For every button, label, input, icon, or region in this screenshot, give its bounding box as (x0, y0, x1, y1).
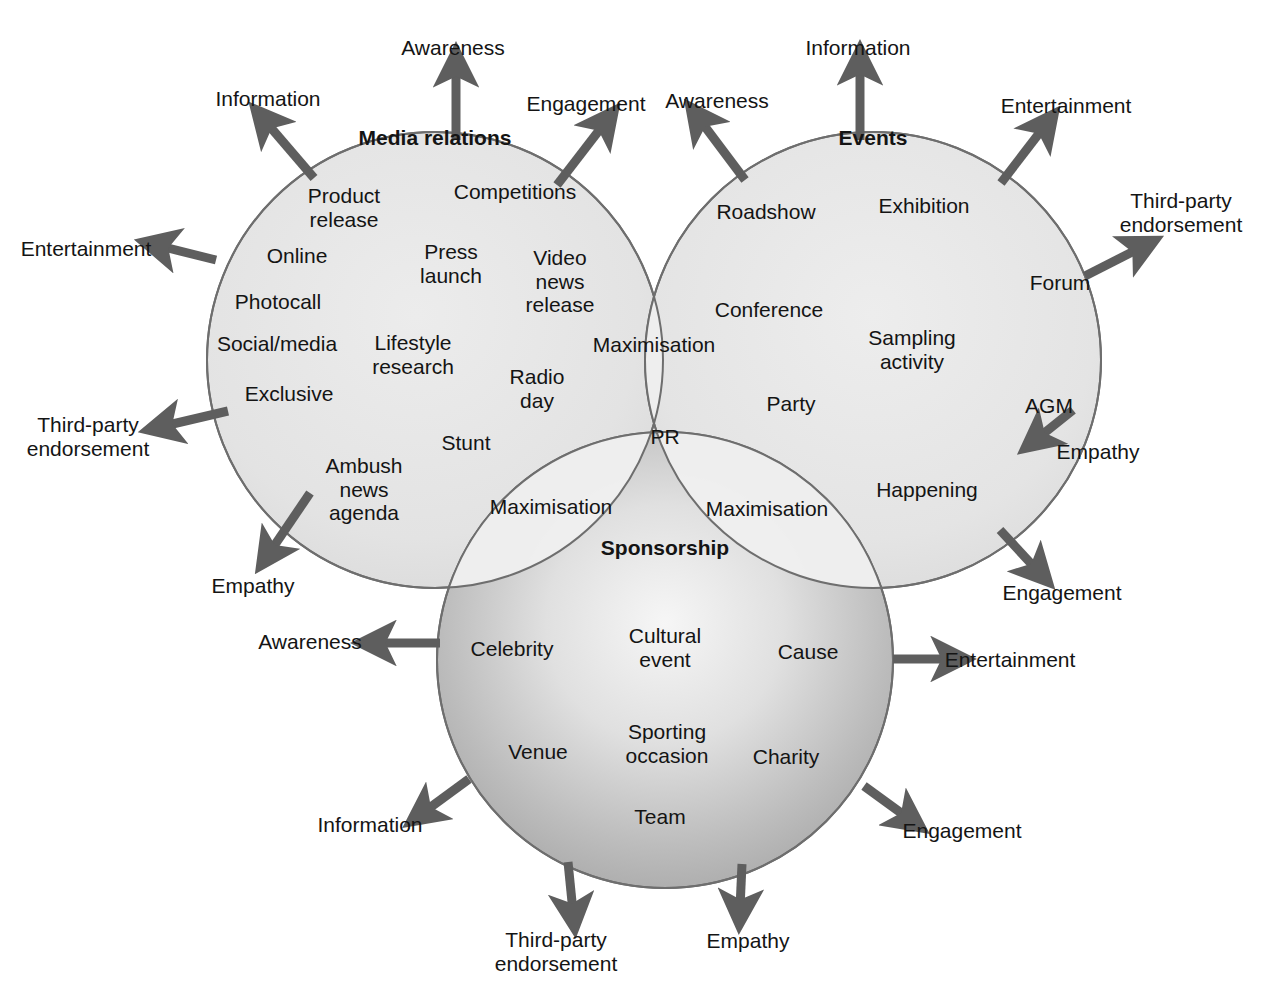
media-relations-item-1: Competitions (454, 180, 577, 204)
arrow-label-sp-information: Information (317, 813, 422, 837)
arrow-label-sp-thirdparty: Third-party endorsement (495, 928, 618, 975)
overlap-label-overlap-events-sponsorship: Maximisation (706, 497, 829, 521)
arrow-label-ev-engagement: Engagement (1002, 581, 1121, 605)
media-relations-item-10: Stunt (441, 431, 490, 455)
arrow-label-ev-information: Information (805, 36, 910, 60)
arrow-label-ev-thirdparty: Third-party endorsement (1120, 189, 1243, 236)
events-item-2: Conference (715, 298, 824, 322)
arrow-sp-engagement (864, 786, 908, 818)
arrow-mr-entertainment (160, 246, 216, 260)
events-item-5: Party (766, 392, 815, 416)
media-relations-item-3: Press launch (420, 240, 482, 287)
venn-shapes-layer (0, 0, 1275, 995)
arrow-sp-information (424, 779, 469, 812)
arrow-sp-thirdparty (568, 862, 573, 912)
arrow-label-ev-entertainment: Entertainment (1001, 94, 1132, 118)
arrow-mr-information (266, 122, 314, 178)
venn-diagram-canvas: Media relationsEventsSponsorshipProduct … (0, 0, 1275, 995)
media-relations-item-6: Social/media (217, 332, 337, 356)
circle-title-sponsorship: Sponsorship (601, 536, 729, 560)
media-relations-item-4: Video news release (526, 246, 595, 317)
overlap-label-overlap-media-events: Maximisation (593, 333, 716, 357)
events-item-1: Exhibition (878, 194, 969, 218)
media-relations-item-11: Ambush news agenda (325, 454, 402, 525)
arrow-sp-empathy (740, 864, 742, 908)
media-relations-item-5: Photocall (235, 290, 321, 314)
arrow-label-sp-empathy: Empathy (707, 929, 790, 953)
media-relations-item-2: Online (267, 244, 328, 268)
sponsorship-item-6: Team (634, 805, 685, 829)
media-relations-item-0: Product release (308, 184, 380, 231)
sponsorship-item-4: Sporting occasion (626, 720, 709, 767)
sponsorship-item-0: Celebrity (471, 637, 554, 661)
events-item-3: Forum (1030, 271, 1091, 295)
sponsorship-item-1: Cultural event (629, 624, 701, 671)
sponsorship-item-2: Cause (778, 640, 839, 664)
sponsorship-item-5: Charity (753, 745, 820, 769)
overlap-label-overlap-media-sponsorship: Maximisation (490, 495, 613, 519)
arrow-label-mr-awareness: Awareness (401, 36, 505, 60)
events-item-4: Sampling activity (868, 326, 956, 373)
arrow-label-mr-thirdparty: Third-party endorsement (27, 413, 150, 460)
arrow-ev-thirdparty (1085, 248, 1140, 276)
sponsorship-item-3: Venue (508, 740, 568, 764)
media-relations-item-7: Lifestyle research (372, 331, 454, 378)
circle-title-media-relations: Media relations (359, 126, 512, 150)
events-item-6: AGM (1025, 394, 1073, 418)
events-item-7: Happening (876, 478, 978, 502)
circle-title-events: Events (839, 126, 908, 150)
media-relations-item-9: Exclusive (245, 382, 334, 406)
center-label-pr: PR (650, 425, 679, 449)
arrow-ev-awareness (700, 120, 745, 180)
media-relations-item-8: Radio day (510, 365, 565, 412)
arrow-label-mr-engagement: Engagement (526, 92, 645, 116)
arrow-label-sp-entertainment: Entertainment (945, 648, 1076, 672)
arrow-label-ev-awareness: Awareness (665, 89, 769, 113)
arrow-label-sp-awareness: Awareness (258, 630, 362, 654)
arrow-label-mr-empathy: Empathy (212, 574, 295, 598)
arrow-ev-entertainment (1001, 127, 1044, 183)
arrow-label-mr-entertainment: Entertainment (21, 237, 152, 261)
arrow-label-ev-empathy: Empathy (1057, 440, 1140, 464)
arrow-mr-engagement (557, 124, 604, 185)
events-item-0: Roadshow (716, 200, 815, 224)
arrow-label-mr-information: Information (215, 87, 320, 111)
arrow-label-sp-engagement: Engagement (902, 819, 1021, 843)
